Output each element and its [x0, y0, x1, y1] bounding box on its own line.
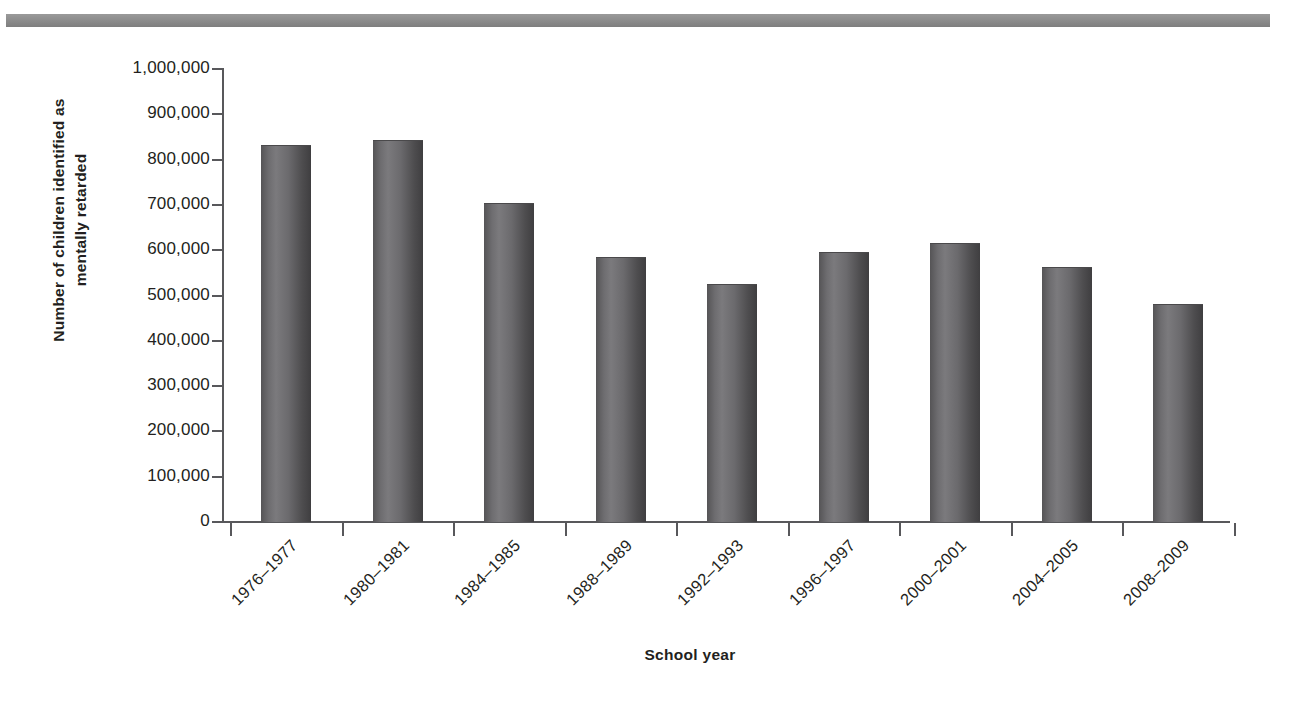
y-axis-tick [212, 68, 223, 70]
x-axis-category-label: 1976–1977 [228, 536, 302, 610]
x-axis-tick [342, 523, 344, 536]
y-axis-tick-label: 600,000 [147, 239, 210, 259]
x-axis-tick [230, 523, 232, 536]
y-axis-tick [212, 113, 223, 115]
bar [930, 243, 980, 522]
y-axis-title-line-2: mentally retarded [70, 10, 92, 430]
y-axis-tick-label: 200,000 [147, 420, 210, 440]
y-axis-tick [212, 249, 223, 251]
y-axis-tick [212, 204, 223, 206]
x-axis-tick [788, 523, 790, 536]
y-axis-tick-label: 1,000,000 [133, 58, 210, 78]
y-axis-tick [212, 521, 223, 523]
bar [707, 284, 757, 522]
y-axis-title: Number of children identified as mentall… [48, 10, 93, 430]
x-axis-category-label: 1988–1989 [562, 536, 636, 610]
bar [1042, 267, 1092, 522]
x-axis-tick [1011, 523, 1013, 536]
x-axis-tick [676, 523, 678, 536]
x-axis-category-label: 2004–2005 [1008, 536, 1082, 610]
y-axis-tick [212, 159, 223, 161]
x-axis-category-label: 1980–1981 [339, 536, 413, 610]
y-axis-tick [212, 295, 223, 297]
bar [819, 252, 869, 522]
y-axis-title-line-1: Number of children identified as [48, 10, 70, 430]
bar [1153, 304, 1203, 522]
bar [261, 145, 311, 522]
chart-page: Number of children identified as mentall… [0, 0, 1290, 725]
y-axis-tick-label: 100,000 [147, 466, 210, 486]
y-axis-tick-label: 400,000 [147, 330, 210, 350]
x-axis-tick [453, 523, 455, 536]
x-axis-title: School year [0, 646, 1290, 664]
y-axis-tick-label: 500,000 [147, 285, 210, 305]
y-axis-tick [212, 385, 223, 387]
x-axis-tick [899, 523, 901, 536]
x-axis-category-label: 1996–1997 [785, 536, 859, 610]
y-axis-tick [212, 476, 223, 478]
x-axis-category-label: 1992–1993 [674, 536, 748, 610]
y-axis-tick [212, 430, 223, 432]
y-axis-tick-label: 900,000 [147, 103, 210, 123]
y-axis-tick-label: 800,000 [147, 149, 210, 169]
y-axis-tick-label: 0 [200, 511, 210, 531]
y-axis-tick-label: 700,000 [147, 194, 210, 214]
x-axis-tick [565, 523, 567, 536]
x-axis-category-label: 2000–2001 [897, 536, 971, 610]
bar [484, 203, 534, 522]
bar [596, 257, 646, 522]
bar [373, 140, 423, 522]
x-axis-tick [1234, 523, 1236, 536]
x-axis-category-label: 1984–1985 [451, 536, 525, 610]
x-axis-category-label: 2008–2009 [1120, 536, 1194, 610]
x-axis-title-text: School year [644, 646, 735, 664]
y-axis-tick-label: 300,000 [147, 375, 210, 395]
bar-chart: Number of children identified as mentall… [0, 0, 1290, 725]
x-axis-tick [1122, 523, 1124, 536]
y-axis-tick [212, 340, 223, 342]
